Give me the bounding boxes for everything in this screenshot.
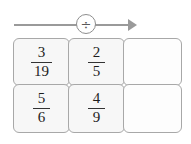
grid-cell-r0c1[interactable]: 2 5 [68,38,124,85]
grid-cell-r1c0[interactable]: 5 6 [13,84,69,132]
grid-cell-r1c1[interactable]: 4 9 [68,84,124,132]
fraction-numerator: 5 [35,91,49,108]
fraction-denominator: 5 [90,63,104,80]
fraction-grid: 3 19 2 5 5 6 4 [14,39,181,132]
fraction-denominator: 6 [35,109,49,126]
grid-cell-r1c2-empty[interactable] [123,84,181,132]
division-operator-icon[interactable]: ÷ [76,14,96,34]
fraction-2-5: 2 5 [88,45,105,80]
fraction-5-6: 5 6 [33,91,50,126]
arrow-head-icon [128,19,137,31]
operator-arrow: ÷ [14,14,138,36]
fraction-numerator: 2 [90,45,104,62]
fraction-4-9: 4 9 [88,91,105,126]
empty-answer-slot [152,108,153,109]
fraction-numerator: 3 [35,45,49,62]
fraction-denominator: 9 [90,109,104,126]
fraction-denominator: 19 [31,63,52,80]
empty-answer-slot [152,62,153,63]
arrow-line [14,24,130,26]
grid-cell-r0c0[interactable]: 3 19 [13,38,69,85]
fraction-numerator: 4 [90,91,104,108]
grid-cell-r0c2-empty[interactable] [123,38,181,85]
fraction-division-widget: ÷ 3 19 2 5 5 6 [0,0,191,144]
fraction-3-19: 3 19 [31,45,52,80]
